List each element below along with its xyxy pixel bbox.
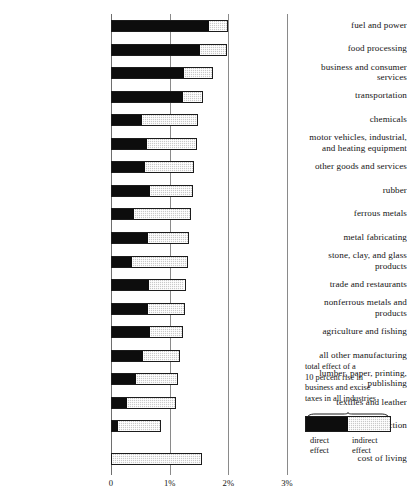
- legend-labels: directeffect indirecteffect: [305, 436, 391, 456]
- bar-segment-indirect: [183, 92, 202, 102]
- legend-label-line: effect: [352, 446, 391, 456]
- legend: total effect of a10 percent rise inbusin…: [305, 362, 401, 456]
- legend-caption-line: taxes in all industries: [305, 394, 401, 405]
- category-label: all other manufacturing: [299, 350, 407, 360]
- bar-segment-direct: [112, 186, 150, 196]
- x-tick-label-1pct: 1%: [157, 478, 183, 488]
- legend-caption-line: business and excise: [305, 383, 401, 394]
- bar-row: [111, 279, 186, 291]
- category-label-line: nonferrous metals and: [299, 297, 407, 307]
- bar-chart: fuel and powerfood processingbusiness an…: [0, 0, 407, 499]
- x-tick-label-0: 0: [98, 478, 124, 488]
- bar-segment-direct: [112, 115, 142, 125]
- bar-row: [111, 256, 188, 268]
- legend-label-indirect: indirecteffect: [349, 436, 391, 456]
- bar-segment-indirect: [148, 304, 184, 314]
- category-label-line: metal fabricating: [299, 232, 407, 242]
- bar-segment-indirect: [148, 233, 188, 243]
- bar-segment-indirect: [145, 162, 193, 172]
- bar-segment-indirect: [209, 21, 226, 31]
- legend-label-direct: directeffect: [305, 436, 349, 456]
- bar-row: [111, 20, 228, 32]
- bar-segment-direct: [112, 68, 184, 78]
- legend-brace-icon: [305, 407, 391, 416]
- plot-area: [111, 14, 287, 475]
- category-label: rubber: [299, 185, 407, 195]
- category-label: trade and restaurants: [299, 279, 407, 289]
- category-label-line: agriculture and fishing: [299, 326, 407, 336]
- legend-swatch-bar: [305, 416, 391, 432]
- bar-segment-direct: [112, 304, 148, 314]
- legend-label-line: indirect: [352, 436, 391, 446]
- gridline-3%: [287, 14, 288, 475]
- bar-segment-direct: [112, 374, 136, 384]
- bar-row: [111, 373, 178, 385]
- bar-segment-indirect: [184, 68, 212, 78]
- category-label: transportation: [299, 90, 407, 100]
- bar-row: [111, 185, 193, 197]
- x-tick-label-2pct: 2%: [215, 478, 241, 488]
- bar-row: [111, 303, 185, 315]
- bar-segment-direct: [112, 45, 200, 55]
- category-label-line: chemicals: [299, 114, 407, 124]
- legend-caption-line: 10 percent rise in: [305, 373, 401, 384]
- category-label-line: and heating equipment: [299, 143, 407, 153]
- bar-segment-direct: [112, 351, 143, 361]
- bar-row: [111, 232, 189, 244]
- legend-caption-line: total effect of a: [305, 362, 401, 373]
- category-label-line: business and consumer: [299, 62, 407, 72]
- gridline-2%: [228, 14, 229, 475]
- bar-row: [111, 208, 191, 220]
- legend-label-line: direct: [310, 436, 349, 446]
- category-label: metal fabricating: [299, 232, 407, 242]
- legend-label-line: effect: [310, 446, 349, 456]
- bar-segment-direct: [112, 209, 134, 219]
- category-label: stone, clay, and glassproducts: [299, 250, 407, 271]
- bar-row: [111, 326, 183, 338]
- bar-segment-indirect: [143, 351, 179, 361]
- category-label: nonferrous metals andproducts: [299, 297, 407, 318]
- category-label-line: stone, clay, and glass: [299, 250, 407, 260]
- bar-row: [111, 138, 197, 150]
- bar-segment-indirect: [150, 327, 182, 337]
- bar-segment-direct: [112, 280, 149, 290]
- bar-row: [111, 161, 194, 173]
- bar-segment-indirect: [134, 209, 189, 219]
- legend-caption: total effect of a10 percent rise inbusin…: [305, 362, 401, 404]
- x-tick-label-3pct: 3%: [274, 478, 300, 488]
- category-label-line: services: [299, 72, 407, 82]
- bar-segment-indirect: [142, 115, 197, 125]
- category-label-line: all other manufacturing: [299, 350, 407, 360]
- category-label: motor vehicles, industrial,and heating e…: [299, 132, 407, 153]
- bar-row: [111, 420, 161, 432]
- bar-segment-direct: [112, 162, 145, 172]
- bar-segment-indirect: [200, 45, 227, 55]
- bar-row: [111, 44, 227, 56]
- category-label: business and consumerservices: [299, 62, 407, 83]
- category-label: fuel and power: [299, 20, 407, 30]
- bar-row: [111, 397, 176, 409]
- category-label: agriculture and fishing: [299, 326, 407, 336]
- category-label-line: products: [299, 261, 407, 271]
- category-label: other goods and services: [299, 161, 407, 171]
- bar-segment-direct: [112, 398, 127, 408]
- bar-segment-indirect: [127, 398, 175, 408]
- bar-segment-direct: [112, 139, 147, 149]
- bar-row: [111, 350, 180, 362]
- category-label-line: fuel and power: [299, 20, 407, 30]
- bar-segment-direct: [112, 327, 150, 337]
- bar-segment-indirect: [118, 421, 161, 431]
- category-label-line: motor vehicles, industrial,: [299, 132, 407, 142]
- bar-segment-indirect: [132, 257, 187, 267]
- bar-segment-direct: [112, 21, 209, 31]
- category-label-line: products: [299, 308, 407, 318]
- category-label-line: rubber: [299, 185, 407, 195]
- category-label: ferrous metals: [299, 208, 407, 218]
- category-label-line: trade and restaurants: [299, 279, 407, 289]
- bar-segment-indirect: [149, 280, 185, 290]
- legend-swatch-indirect: [348, 417, 390, 431]
- category-label-line: food processing: [299, 43, 407, 53]
- category-label-line: ferrous metals: [299, 208, 407, 218]
- bar-segment-indirect: [112, 454, 201, 464]
- bar-segment-indirect: [147, 139, 196, 149]
